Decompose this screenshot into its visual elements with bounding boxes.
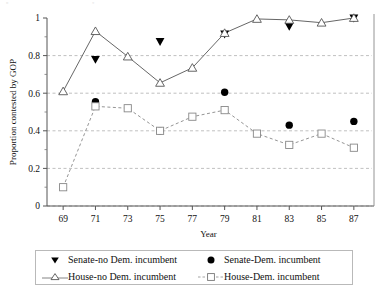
x-tick-label-2: 73 [123,214,133,224]
x-tick-label-7: 83 [285,214,295,224]
legend-label-house-no-dem: House-no Dem. incumbent [68,271,176,282]
x-tick-label-4: 77 [188,214,198,224]
legend-label-house-dem: House-Dem. incumbent [224,271,320,282]
x-tick-label-3: 75 [155,214,165,224]
legend-row-2: House-no Dem. incumbent House-Dem. incum… [36,268,352,285]
legend-item-senate-no-dem[interactable]: Senate-no Dem. incumbent [42,253,198,267]
x-tick-label-0: 69 [58,214,68,224]
scan-artifact-left: ▫ [6,0,8,7]
point-3-5 [221,107,228,114]
open-square-icon [198,270,224,284]
y-tick-label-4: 0.8 [28,51,40,61]
point-3-3 [156,127,163,134]
plot-area: 00.20.40.60.8169717375777981838587YearPr… [0,0,388,248]
point-3-1 [92,103,99,110]
point-1-3 [286,121,293,128]
point-2-1 [91,27,100,35]
point-1-2 [221,89,228,96]
point-3-8 [318,130,325,137]
point-2-0 [59,87,68,95]
point-3-4 [189,113,196,120]
legend-item-senate-dem[interactable]: Senate-Dem. incumbent [198,253,321,267]
legend-label-senate-no-dem: Senate-no Dem. incumbent [68,254,177,265]
x-tick-label-8: 85 [317,214,327,224]
y-tick-label-0: 0 [35,201,40,211]
series-line-2 [63,18,354,91]
point-3-2 [124,105,131,112]
y-tick-label-1: 0.2 [28,164,40,174]
legend-label-senate-dem: Senate-Dem. incumbent [224,254,321,265]
point-0-0 [91,56,100,64]
x-tick-label-1: 71 [91,214,101,224]
filled-triangle-down-icon [42,253,68,267]
series-line-3 [63,106,354,187]
point-2-2 [123,52,132,60]
chart-legend: Senate-no Dem. incumbent Senate-Dem. inc… [35,250,353,285]
legend-row-1: Senate-no Dem. incumbent Senate-Dem. inc… [36,251,352,268]
proportion-contested-line-chart: 00.20.40.60.8169717375777981838587YearPr… [0,0,388,248]
legend-item-house-dem[interactable]: House-Dem. incumbent [198,270,320,284]
open-triangle-up-icon [42,270,68,284]
filled-circle-icon [198,253,224,267]
x-axis-title: Year [200,229,217,239]
point-3-7 [286,141,293,148]
y-tick-label-3: 0.6 [28,89,40,99]
x-tick-label-5: 79 [220,214,230,224]
point-0-1 [156,38,165,46]
chart-root: 00.20.40.60.8169717375777981838587YearPr… [0,0,388,289]
point-3-6 [253,130,260,137]
y-tick-label-5: 1 [35,13,40,23]
y-tick-label-2: 0.4 [28,126,40,136]
x-tick-label-6: 81 [252,214,262,224]
x-tick-label-9: 87 [349,214,359,224]
y-axis-title: Proportion contested by GOP [8,59,18,165]
point-0-3 [285,23,294,31]
scan-artifact-right: ◦ [92,0,94,7]
point-3-9 [350,144,357,151]
point-2-6 [253,15,262,23]
point-3-0 [60,184,67,191]
point-1-4 [350,118,357,125]
legend-item-house-no-dem[interactable]: House-no Dem. incumbent [42,270,198,284]
